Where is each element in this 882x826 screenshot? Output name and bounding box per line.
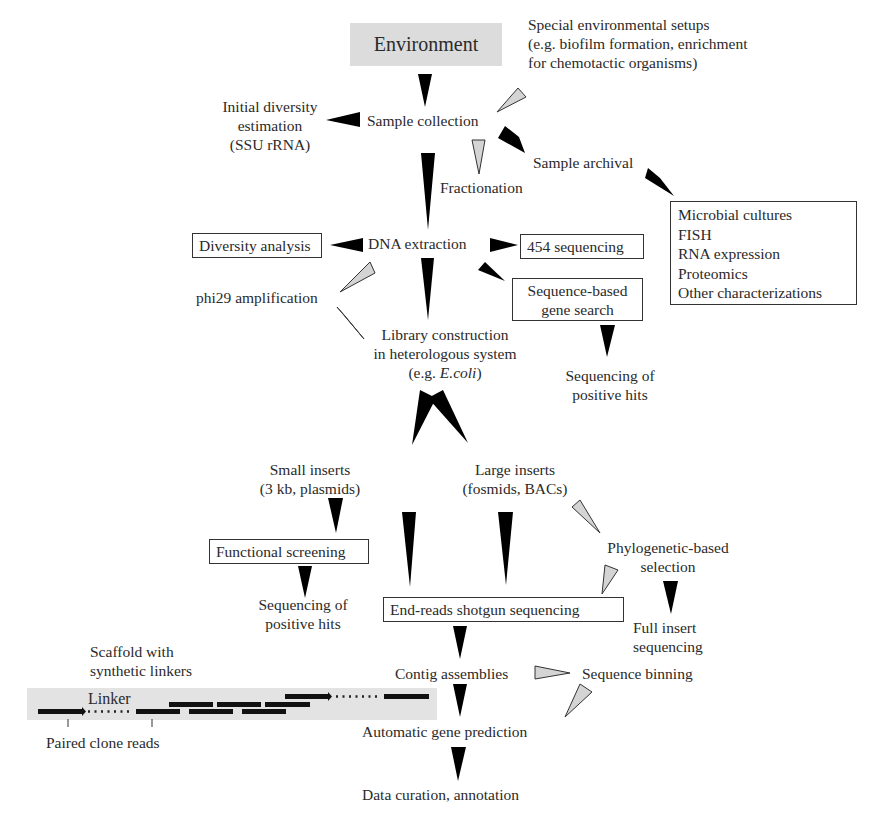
hollow-arrow-icon [565,684,592,717]
solid-arrow-icon [326,112,360,127]
solid-arrow-icon [418,74,432,107]
read-bar [169,702,213,707]
hollow-arrow-icon [497,88,526,112]
solid-arrow-icon [453,626,467,659]
solid-arrows [298,74,678,781]
solid-arrow-icon [490,238,518,252]
solid-arrow-icon [645,168,674,196]
solid-arrow-icon [478,262,505,281]
hollow-arrow-icon [337,307,364,339]
read-bar [217,702,261,707]
read-arrowhead [328,692,332,701]
solid-arrow-icon [421,258,434,320]
read-bar [38,709,82,714]
solid-arrow-icon [328,498,343,533]
hollow-arrow-icon [602,565,618,594]
read-bar [136,709,180,714]
solid-arrow-icon [421,153,435,230]
solid-arrow-icon [453,684,467,717]
hollow-arrows [337,88,618,717]
read-bar [265,702,310,707]
read-bar [384,694,429,699]
solid-arrow-icon [428,390,468,443]
hollow-arrow-icon [572,500,600,533]
hollow-arrow-icon [340,262,375,292]
solid-arrow-icon [663,581,678,614]
read-bar [189,709,233,714]
solid-arrow-icon [498,126,525,153]
hollow-arrow-icon [472,140,485,174]
solid-arrow-icon [330,238,363,252]
read-arrowhead [82,707,86,716]
solid-arrow-icon [451,747,466,781]
solid-arrow-icon [600,325,615,357]
read-bar [285,694,328,699]
solid-arrow-icon [298,566,312,598]
solid-arrow-icon [498,512,513,585]
arrows-layer [0,0,882,826]
solid-arrow-icon [402,512,416,587]
scaffold-reads [38,692,429,727]
hollow-arrow-icon [535,666,570,679]
read-bar [242,709,286,714]
